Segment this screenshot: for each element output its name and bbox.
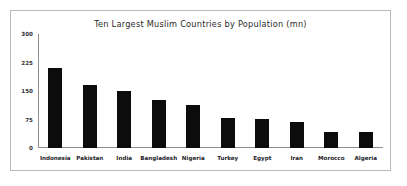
y-axis-tick-label: 150 <box>21 88 33 94</box>
x-axis-category-label: Algeria <box>355 155 378 161</box>
bar[interactable] <box>221 118 235 148</box>
bar-group[interactable]: Iran <box>280 34 315 148</box>
y-axis-tick-label: 0 <box>29 145 33 151</box>
bar[interactable] <box>152 100 166 148</box>
bar[interactable] <box>186 105 200 148</box>
x-axis-category-label: Morocco <box>318 155 345 161</box>
bar[interactable] <box>290 122 304 148</box>
x-axis-category-label: Iran <box>290 155 303 161</box>
bar-group[interactable]: India <box>107 34 142 148</box>
bar[interactable] <box>117 91 131 148</box>
x-axis-category-label: Turkey <box>217 155 238 161</box>
x-axis-category-label: Indonesia <box>40 155 71 161</box>
bar-group[interactable]: Algeria <box>349 34 384 148</box>
bar[interactable] <box>255 119 269 148</box>
x-axis-category-label: India <box>116 155 132 161</box>
plot-area: 075150225300 IndonesiaPakistanIndiaBangl… <box>38 34 383 148</box>
x-axis-category-label: Egypt <box>253 155 271 161</box>
bar-group[interactable]: Bangladesh <box>142 34 177 148</box>
bar-group[interactable]: Pakistan <box>73 34 108 148</box>
bars-layer: IndonesiaPakistanIndiaBangladeshNigeriaT… <box>38 34 383 148</box>
bar-group[interactable]: Indonesia <box>38 34 73 148</box>
bar-group[interactable]: Turkey <box>211 34 246 148</box>
bar[interactable] <box>324 132 338 148</box>
y-axis-tick-label: 75 <box>25 117 33 123</box>
chart-card: Ten Largest Muslim Countries by Populati… <box>10 10 391 171</box>
x-axis-category-label: Bangladesh <box>140 155 177 161</box>
bar[interactable] <box>83 85 97 148</box>
y-axis-tick-label: 225 <box>21 60 33 66</box>
bar-group[interactable]: Nigeria <box>176 34 211 148</box>
bar[interactable] <box>48 68 62 148</box>
bar-group[interactable]: Morocco <box>314 34 349 148</box>
x-axis-category-label: Pakistan <box>76 155 103 161</box>
chart-title: Ten Largest Muslim Countries by Populati… <box>11 19 390 29</box>
x-axis-category-label: Nigeria <box>182 155 205 161</box>
y-axis-tick-label: 300 <box>21 31 33 37</box>
bar-group[interactable]: Egypt <box>245 34 280 148</box>
bar[interactable] <box>359 132 373 148</box>
